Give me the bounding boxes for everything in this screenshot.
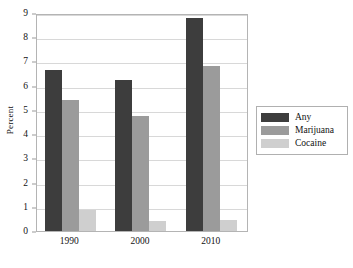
bar-cocaine-2000[interactable] [149, 221, 166, 231]
legend-item-marijuana[interactable]: Marijuana [261, 124, 343, 137]
bar-marijuana-1990[interactable] [62, 100, 79, 231]
legend-item-any[interactable]: Any [261, 111, 343, 124]
bar-cocaine-2010[interactable] [220, 220, 237, 231]
legend-label: Marijuana [295, 126, 334, 136]
y-axis-tick-label: 7 [23, 58, 28, 68]
bar-any-2010[interactable] [186, 18, 203, 231]
y-axis-title: Percent [5, 106, 15, 134]
y-axis-tick-label: 2 [23, 179, 28, 189]
y-axis-tick-label: 4 [23, 130, 28, 140]
legend-item-cocaine[interactable]: Cocaine [261, 137, 343, 150]
x-axis-tick-label: 2010 [201, 236, 220, 246]
y-axis-tick-label: 5 [23, 106, 28, 116]
bar-marijuana-2010[interactable] [203, 66, 220, 231]
legend-swatch-cocaine [261, 139, 289, 148]
y-axis-tick-label: 8 [23, 33, 28, 43]
y-axis-tick-label: 6 [23, 82, 28, 92]
bar-cocaine-1990[interactable] [79, 210, 96, 231]
legend-swatch-marijuana [261, 126, 289, 135]
legend-swatch-any [261, 113, 289, 122]
bar-group [108, 15, 179, 231]
bar-group [37, 15, 108, 231]
bar-series-container [37, 15, 247, 231]
y-axis-tick-label: 1 [23, 203, 28, 213]
plot-area [36, 14, 248, 232]
bar-chart-figure: Percent 0123456789 199020002010 AnyMarij… [0, 0, 353, 268]
y-axis-tick-labels: 0123456789 [16, 14, 32, 232]
chart-legend: AnyMarijuanaCocaine [256, 106, 348, 155]
legend-label: Any [295, 113, 311, 123]
y-axis-tick-label: 9 [23, 9, 28, 19]
bar-any-1990[interactable] [45, 70, 62, 231]
legend-label: Cocaine [295, 139, 326, 149]
x-axis-tick-label: 1990 [60, 236, 79, 246]
x-axis-tick-labels: 199020002010 [36, 236, 248, 252]
y-axis-tick-label: 0 [23, 227, 28, 237]
x-axis-tick-label: 2000 [131, 236, 150, 246]
bar-marijuana-2000[interactable] [132, 116, 149, 231]
bar-group [178, 15, 248, 231]
bar-any-2000[interactable] [115, 80, 132, 231]
y-axis-tick-label: 3 [23, 155, 28, 165]
